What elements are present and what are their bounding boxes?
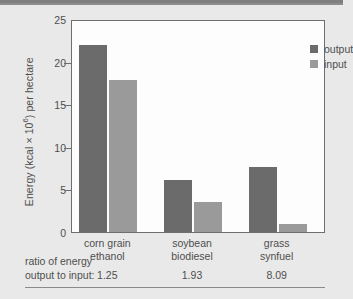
y-tick-label: 20 xyxy=(26,57,66,69)
legend-item-output[interactable]: output xyxy=(310,43,353,55)
bar-output-corn-grain-ethanol xyxy=(79,45,107,232)
x-axis-label-line: grass xyxy=(260,237,293,250)
legend-item-input[interactable]: input xyxy=(310,58,353,70)
y-tick-label: 10 xyxy=(26,142,66,154)
ratio-value-soybean-biodiesel: 1.93 xyxy=(169,269,215,281)
plot-area: outputinput xyxy=(71,20,325,233)
ratio-footer: ratio of energy output to input: 1.251.9… xyxy=(0,255,343,299)
top-decorative-band-inner xyxy=(0,0,343,3)
x-axis-label-line: soybean xyxy=(171,237,212,250)
legend-label: output xyxy=(324,43,353,55)
legend-swatch-icon xyxy=(310,60,318,68)
ratio-caption-line1: ratio of energy xyxy=(25,255,94,269)
chart-legend: outputinput xyxy=(310,43,353,73)
chart-figure: Energy (kcal × 106) per hectare 05101520… xyxy=(0,5,343,299)
bar-output-grass-synfuel xyxy=(249,167,277,232)
y-tick-label: 0 xyxy=(26,227,66,239)
ratio-value-grass-synfuel: 8.09 xyxy=(254,269,300,281)
ratio-divider xyxy=(25,287,325,288)
bar-input-grass-synfuel xyxy=(279,224,307,232)
bar-input-corn-grain-ethanol xyxy=(109,80,137,232)
y-tick-label: 15 xyxy=(26,99,66,111)
y-tick-label: 25 xyxy=(26,14,66,26)
bar-input-soybean-biodiesel xyxy=(194,202,222,232)
ratio-value-corn-grain-ethanol: 1.25 xyxy=(84,269,130,281)
y-tick-label: 5 xyxy=(26,184,66,196)
bars-layer xyxy=(72,21,324,232)
bar-output-soybean-biodiesel xyxy=(164,180,192,232)
legend-swatch-icon xyxy=(310,45,318,53)
x-axis-label-line: corn grain xyxy=(84,237,131,250)
legend-label: input xyxy=(324,58,347,70)
y-axis-title-exponent: 6 xyxy=(21,118,30,122)
